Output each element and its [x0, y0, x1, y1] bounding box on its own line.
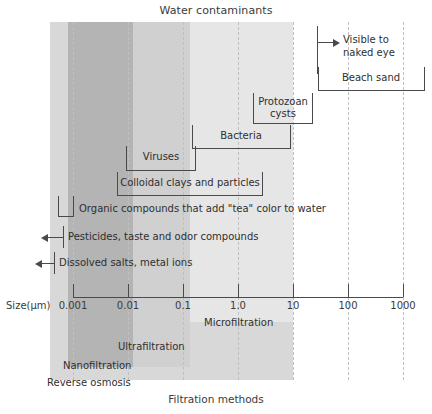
axis-line: [73, 297, 403, 298]
protozoan-cysts-label-line1: Protozoan: [258, 96, 308, 108]
beach-sand-label: Beach sand: [342, 72, 400, 84]
axis-ticklabel-1.0: 1.0: [230, 300, 246, 311]
colloidal-clays-label: Colloidal clays and particles: [120, 177, 260, 189]
nanofiltration-label: Nanofiltration: [63, 360, 131, 371]
pesticides-label: Pesticides, taste and odor compounds: [68, 231, 259, 243]
axis-tick-0.1: [183, 284, 184, 297]
microfiltration-label: Microfiltration: [204, 317, 273, 328]
dissolved-salts-stub: [54, 252, 55, 274]
dissolved-salts-label: Dissolved salts, metal ions: [59, 257, 192, 269]
visible-to-naked-eye-label-line1: Visible to: [343, 34, 389, 46]
visible-to-naked-eye-arrow-head: [333, 39, 340, 47]
pesticides-arrow-head: [41, 234, 48, 242]
axis-ticklabel-10: 10: [287, 300, 300, 311]
gridline-0.1: [183, 22, 184, 380]
axis-ticklabel-0.001: 0.001: [59, 300, 88, 311]
axis-ticklabel-100: 100: [338, 300, 357, 311]
gridline-0.01: [128, 22, 129, 380]
axis-tick-0.001: [73, 284, 74, 297]
visible-to-naked-eye-label-line2: naked eye: [343, 47, 395, 59]
organic-compounds-label: Organic compounds that add "tea" color t…: [79, 203, 326, 215]
reverse-osmosis-label: Reverse osmosis: [47, 377, 131, 388]
page-title: Water contaminants: [0, 4, 432, 17]
axis-ticklabel-0.1: 0.1: [175, 300, 191, 311]
dissolved-salts-arrow-head: [35, 260, 42, 268]
axis-tick-100: [348, 284, 349, 297]
ultrafiltration-label: Ultrafiltration: [118, 341, 185, 352]
pesticides-arrow-line: [47, 237, 63, 238]
water-contaminants-chart: Water contaminants Visible to naked eye …: [0, 0, 432, 414]
viruses-label: Viruses: [143, 151, 179, 163]
axis-title: Size(µm): [6, 300, 50, 311]
protozoan-cysts-label-line2: cysts: [270, 108, 296, 120]
axis-ticklabel-0.01: 0.01: [117, 300, 139, 311]
axis-tick-10: [293, 284, 294, 297]
footer-title: Filtration methods: [0, 393, 432, 405]
gridline-10: [293, 22, 294, 380]
axis-tick-0.01: [128, 284, 129, 297]
organic-compounds-bracket: [58, 196, 74, 217]
axis-ticklabel-1000: 1000: [390, 300, 415, 311]
axis-tick-1.0: [238, 284, 239, 297]
axis-tick-1000: [403, 284, 404, 297]
dissolved-salts-arrow-line: [41, 263, 54, 264]
pesticides-stub: [63, 226, 64, 248]
bacteria-label: Bacteria: [220, 130, 262, 142]
